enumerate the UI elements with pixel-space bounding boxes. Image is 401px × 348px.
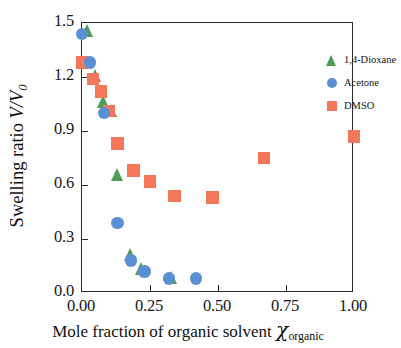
data-point-square [206,191,219,204]
data-point-square [144,175,157,188]
data-point-circle [138,265,151,278]
legend-marker-circle-icon [325,76,339,90]
data-point-square [76,56,89,69]
data-point-triangle [105,104,117,117]
x-tick-label: 1.00 [323,298,383,314]
y-tick-mark [82,77,88,78]
data-point-circle [163,272,176,285]
legend-item-dmso[interactable]: DMSO [325,96,401,115]
x-tick-label: 0.00 [51,298,111,314]
data-point-circle [190,272,203,285]
legend-marker-square-icon [325,99,339,113]
legend: 1,4-DioxaneAcetoneDMSO [325,50,401,119]
x-axis-title: Mole fraction of organic solvent χorgani… [0,320,376,346]
data-point-triangle [89,69,101,82]
data-point-triangle [165,271,177,284]
y-tick-mark [82,239,88,240]
data-point-circle [84,56,97,69]
legend-label: 1,4-Dioxane [344,54,396,66]
x-tick-mark [150,285,151,291]
legend-marker-triangle-icon [325,53,339,67]
y-tick-label: 1.2 [30,67,74,83]
x-tick-label-group: 0.000.250.500.751.00 [0,298,376,320]
data-point-triangle [135,262,147,275]
data-point-triangle [81,24,93,37]
legend-glyph [326,55,336,66]
data-point-circle [125,254,138,267]
legend-glyph [327,78,337,88]
legend-item-1-4-dioxane[interactable]: 1,4-Dioxane [325,50,401,69]
y-tick-label: 0.9 [30,121,74,137]
x-axis-title-text: Mole fraction of organic solvent [52,322,272,341]
data-point-square [103,105,116,118]
x-tick-label: 0.50 [187,298,247,314]
y-tick-label: 0.3 [30,229,74,245]
y-tick-mark [82,131,88,132]
data-point-square [348,130,361,143]
legend-glyph [327,101,337,111]
data-point-triangle [97,95,109,108]
data-point-square [87,73,100,86]
y-axis-title-text: Swelling ratio [7,123,27,227]
data-point-circle [98,107,111,120]
data-point-circle [111,217,124,230]
data-point-circle [76,28,89,41]
data-point-square [111,137,124,150]
y-axis-title-symbol: V/V0 [7,84,27,123]
data-point-triangle [124,248,136,261]
y-tick-mark [82,185,88,186]
data-point-square [168,190,181,203]
x-tick-label: 0.25 [119,298,179,314]
data-point-square [258,152,271,165]
legend-label: DMSO [344,100,374,112]
x-tick-mark [218,285,219,291]
data-point-triangle [111,168,123,181]
legend-label: Acetone [344,77,379,89]
data-point-square [95,85,108,98]
y-tick-label: 1.5 [30,13,74,29]
x-tick-mark [286,285,287,291]
y-tick-label: 0.6 [30,175,74,191]
x-axis-title-symbol: χorganic [272,322,324,341]
legend-item-acetone[interactable]: Acetone [325,73,401,92]
data-point-square [127,164,140,177]
plot-area: 1,4-DioxaneAcetoneDMSO [81,22,353,292]
x-tick-label: 0.75 [255,298,315,314]
